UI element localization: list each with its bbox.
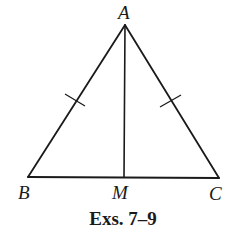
tick-mark-AC [160, 95, 181, 107]
figure-caption: Exs. 7–9 [89, 208, 157, 229]
segment-AM [124, 25, 125, 177]
vertex-label-A: A [116, 2, 130, 23]
vertex-label-B: B [18, 182, 30, 203]
segment-AC [125, 25, 219, 178]
vertex-label-M: M [111, 182, 129, 203]
isosceles-triangle-diagram: A B M C Exs. 7–9 [0, 0, 239, 232]
vertex-label-C: C [209, 183, 222, 204]
